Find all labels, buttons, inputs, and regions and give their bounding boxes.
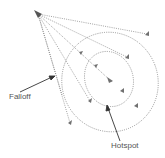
arrowhead-icon (49, 76, 55, 80)
hotspot-handle-icon[interactable] (94, 64, 98, 68)
hotspot-handle-icon[interactable] (88, 98, 92, 103)
falloff-edge-line (38, 14, 70, 123)
axis-line (38, 14, 112, 82)
spotlight-diagram (0, 0, 165, 158)
hotspot-edge-line (38, 14, 90, 101)
falloff-cone-ellipse (48, 19, 165, 146)
falloff-edge-line (38, 14, 62, 95)
target-icon[interactable] (107, 77, 113, 83)
falloff-edge-line (38, 14, 147, 34)
falloff-label: Falloff (9, 92, 31, 101)
hotspot-label: Hotspot (111, 141, 139, 150)
light-source-icon[interactable] (34, 10, 42, 18)
falloff-handle-icon[interactable] (134, 103, 138, 108)
hotspot-edge-line (38, 14, 127, 57)
hotspot-pointer-arrow (108, 108, 120, 141)
falloff-handle-icon[interactable] (68, 120, 72, 125)
falloff-handle-icon[interactable] (145, 31, 149, 36)
arrowhead-icon (106, 105, 110, 111)
hotspot-handle-icon[interactable] (120, 88, 124, 93)
falloff-pointer-arrow (20, 77, 52, 92)
